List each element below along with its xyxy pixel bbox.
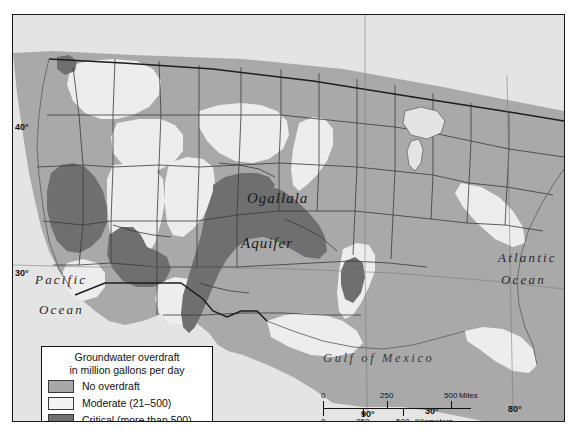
scale-label-km-500: 500 (396, 417, 409, 422)
scale-bar-line (323, 408, 471, 409)
coord-lat-30: 30° (15, 268, 29, 278)
legend-label-moderate: Moderate (21–500) (82, 397, 171, 410)
coord-lon-80: 80° (508, 404, 522, 414)
scale-bar: 0 250 500 Miles 0 250 500 Kilometers (323, 395, 501, 422)
scale-tick-km-250 (363, 409, 364, 416)
scale-label-miles-0: 0 (321, 391, 325, 400)
legend-label-no-overdraft: No overdraft (82, 380, 140, 393)
scale-unit-kilometers: Kilometers (415, 417, 453, 422)
map-screenshot: Ogallala Aquifer Pacific Ocean Atlantic … (0, 0, 578, 431)
scale-label-miles-500: 500 (444, 391, 457, 400)
scale-tick-miles-500 (451, 401, 452, 408)
legend-row-moderate: Moderate (21–500) (48, 397, 206, 410)
legend-title-line1: Groundwater overdraft (48, 351, 206, 364)
legend-box: Groundwater overdraft in million gallons… (41, 346, 213, 422)
legend-title-line2: in million gallons per day (48, 364, 206, 377)
scale-tick-miles-0 (323, 401, 324, 408)
coord-lat-40: 40° (15, 122, 29, 132)
scale-tick-miles-250 (387, 401, 388, 408)
legend-swatch-no-overdraft (48, 380, 74, 393)
scale-label-km-250: 250 (356, 417, 369, 422)
legend-swatch-critical (48, 414, 74, 422)
scale-unit-miles: Miles (459, 391, 478, 400)
scale-label-miles-250: 250 (380, 391, 393, 400)
scale-tick-km-0 (323, 409, 324, 416)
map-frame: Ogallala Aquifer Pacific Ocean Atlantic … (12, 14, 565, 422)
scale-label-km-0: 0 (321, 417, 325, 422)
scale-tick-km-500 (403, 409, 404, 416)
legend-row-critical: Critical (more than 500) (48, 414, 206, 422)
legend-label-critical: Critical (more than 500) (82, 414, 192, 422)
legend-row-no-overdraft: No overdraft (48, 380, 206, 393)
legend-swatch-moderate (48, 397, 74, 410)
